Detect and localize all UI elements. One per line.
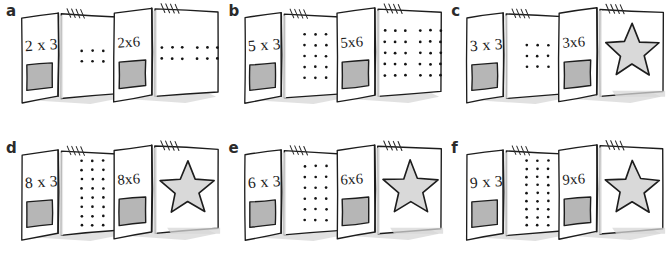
figure-sheet: a2 x 32x6b5 x 35x6c3 x 33x6d8 x 38x6e6 x… [0,0,668,266]
panel-letter-label: a [6,4,16,19]
card-picture-swatch [27,200,53,227]
panel-e: e6 x 36x6 [223,133,446,266]
card-picture-swatch [27,63,52,90]
card-equation-label: 3 x 3 [470,35,504,54]
card-picture-swatch [249,200,275,227]
panel-drawing-c: 3 x 33x6 [445,0,668,133]
card-picture-swatch [472,200,498,227]
card-equation-label: 9 x 3 [470,172,504,191]
card-equation-label: 2 x 3 [24,35,58,54]
card-inner-right-leaf [283,151,345,235]
card-inner-right-leaf [61,151,122,235]
card-inner-right-leaf [155,9,218,97]
card-picture-swatch [119,197,146,226]
panel-letter-label: b [229,4,240,19]
panel-letter-label: d [6,141,17,156]
panel-d: d8 x 38x6 [0,133,223,266]
card-equation-label: 3x6 [562,33,586,51]
panel-drawing-b: 5 x 35x6 [223,0,446,133]
panel-a: a2 x 32x6 [0,0,223,133]
card-picture-swatch [119,60,146,89]
panel-drawing-a: 2 x 32x6 [0,0,223,133]
panel-letter-label: e [229,141,239,156]
card-equation-label: 6x6 [339,170,363,188]
panel-letter-label: c [451,4,460,19]
panel-drawing-d: 8 x 38x6 [0,133,223,266]
card-equation-label: 5 x 3 [247,35,281,54]
panel-drawing-e: 6 x 36x6 [223,133,446,266]
panel-f: f9 x 39x6 [445,133,668,266]
panel-drawing-f: 9 x 39x6 [445,133,668,266]
card-picture-swatch [564,197,591,226]
panel-b: b5 x 35x6 [223,0,446,133]
card-picture-swatch [249,63,275,90]
panel-letter-label: f [451,141,458,156]
card-picture-swatch [342,197,369,226]
card-equation-label: 2x6 [117,33,141,51]
card-picture-swatch [472,63,498,90]
card-equation-label: 8 x 3 [24,172,58,191]
card-equation-label: 9x6 [562,170,586,188]
card-equation-label: 8x6 [117,170,141,188]
card-picture-swatch [564,60,591,89]
card-equation-label: 5x6 [339,33,363,51]
card-picture-swatch [342,60,369,89]
card-equation-label: 6 x 3 [247,172,281,191]
panel-c: c3 x 33x6 [445,0,668,133]
